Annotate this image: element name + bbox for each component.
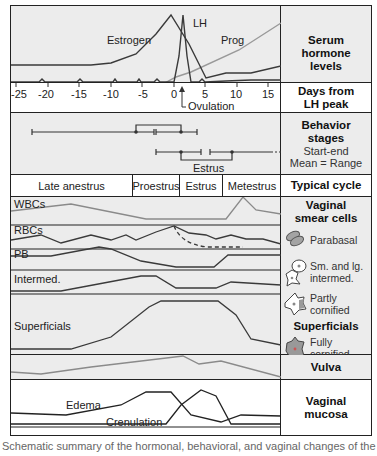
prog-label: Prog: [221, 34, 244, 46]
vulva-chart: [11, 355, 281, 379]
vulva-curve: [11, 355, 281, 380]
parabasal-cell-icon: [282, 227, 310, 253]
row-vaginal-mucosa: Edema Crenulation Vaginal mucosa: [11, 380, 371, 436]
partly-cornified-cell-icon: [282, 291, 310, 317]
tick-label: -15: [71, 88, 87, 100]
edema-label: Edema: [66, 399, 101, 411]
days-axis: -25 -20 -15 -10 -5 0 5 10 15 Ovulation: [11, 83, 281, 112]
ovulation-arrow-icon: [179, 86, 185, 92]
row-vulva: Vulva: [11, 355, 371, 380]
crenulation-label: Crenulation: [106, 416, 162, 428]
tick-label: 0: [171, 88, 177, 100]
tick-label: -25: [11, 88, 27, 100]
intermed-label: Intermed.: [14, 273, 60, 285]
tick-label: 15: [262, 88, 274, 100]
tick-label: -5: [138, 88, 148, 100]
smear-chart: WBCs RBCs PB Intermed. Superficials: [11, 197, 281, 354]
legend-intermediate: Sm. and lg.intermed.: [282, 257, 370, 287]
pb-label: PB: [14, 248, 29, 260]
tick-label: -20: [38, 88, 54, 100]
tick-label: 10: [230, 88, 242, 100]
superficials-label: Superficials: [14, 320, 71, 332]
behavior-chart: Estrus: [11, 113, 281, 174]
vaginal-smear-cells-label: Vaginal smear cells Parabasal Sm. and lg…: [281, 197, 371, 354]
estrogen-label: Estrogen: [107, 34, 151, 46]
vulva-label: Vulva: [281, 355, 371, 379]
days-from-lh-peak-label: Days from LH peak: [281, 83, 371, 112]
behavior-stages-label: Behavior stages Start-end Mean = Range: [281, 113, 371, 174]
row-vaginal-smear-cells: WBCs RBCs PB Intermed. Superficials Vagi…: [11, 197, 371, 355]
phase-late-anestrus: Late anestrus: [11, 175, 133, 196]
phase-metestrus: Metestrus: [223, 175, 281, 196]
behavior-ranges: [11, 113, 281, 175]
figure-caption: Schematic summary of the hormonal, behav…: [2, 440, 377, 452]
lh-label: LH: [193, 17, 207, 29]
legend-parabasal: Parabasal: [282, 227, 370, 253]
rbcs-label: RBCs: [14, 224, 43, 236]
row-behavior-stages: Estrus Behavior stages Start-end Mean = …: [11, 113, 371, 175]
tick-label: 5: [202, 88, 208, 100]
ovulation-label: Ovulation: [188, 100, 234, 112]
phase-estrus: Estrus: [180, 175, 223, 196]
estrous-cycle-diagram: Estrogen LH Prog Serum hormone levels: [10, 5, 372, 436]
legend-partly-cornified: Partlycornified: [282, 291, 370, 317]
typical-cycle-label: Typical cycle: [281, 175, 371, 196]
row-days-from-lh-peak: -25 -20 -15 -10 -5 0 5 10 15 Ovulation D…: [11, 82, 371, 113]
row-typical-cycle: Late anestrus Proestrus Estrus Metestrus…: [11, 175, 371, 197]
superficials-heading: Superficials: [293, 320, 358, 333]
cycle-phases: Late anestrus Proestrus Estrus Metestrus: [11, 175, 281, 196]
tick-label: -10: [103, 88, 119, 100]
intermediate-cell-icon: [282, 257, 310, 287]
wbcs-label: WBCs: [14, 198, 45, 210]
estrus-range-label: Estrus: [193, 162, 224, 174]
mucosa-chart: Edema Crenulation: [11, 380, 281, 436]
phase-proestrus: Proestrus: [133, 175, 180, 196]
vaginal-mucosa-label: Vaginal mucosa: [281, 380, 371, 436]
